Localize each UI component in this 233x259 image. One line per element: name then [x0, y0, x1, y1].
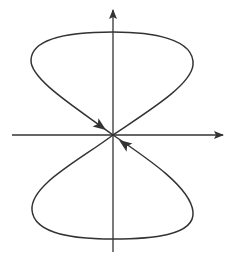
diagram-canvas	[0, 0, 233, 259]
upper-loop-curve	[31, 32, 193, 135]
flow-arrow-icon	[93, 118, 109, 134]
phase-portrait-diagram	[0, 0, 233, 259]
